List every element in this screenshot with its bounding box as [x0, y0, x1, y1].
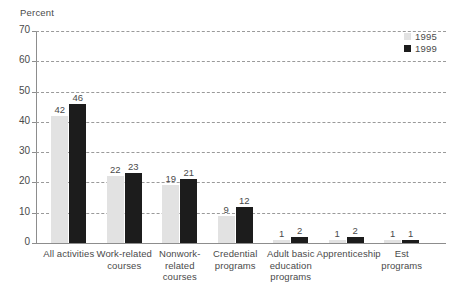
legend: 19951999: [404, 32, 437, 53]
bar-group: 12: [329, 237, 364, 243]
x-axis-category-line: Nonwork-: [150, 248, 210, 260]
y-tick-label: 10: [19, 206, 30, 217]
y-tick-label: 70: [19, 24, 30, 35]
bar-value-label: 46: [72, 93, 83, 103]
bar-rect: [402, 240, 419, 243]
y-tick-label: 40: [19, 115, 30, 126]
x-axis-category-label: Credentialprograms: [206, 248, 266, 271]
bar-chart: Percent 010203040506070 4246222319219121…: [0, 0, 459, 305]
y-tick-mark: [32, 213, 36, 214]
y-tick-mark: [32, 61, 36, 62]
y-tick-mark: [32, 152, 36, 153]
bar-value-label: 42: [54, 105, 65, 115]
bar-1995: 9: [218, 216, 235, 243]
bar-1999: 2: [291, 237, 308, 243]
plot-area: 010203040506070 424622231921912121211: [36, 31, 446, 243]
bar-value-label: 12: [239, 196, 250, 206]
y-tick-label: 30: [19, 145, 30, 156]
bar-1995: 22: [107, 176, 124, 243]
bar-group: 2223: [107, 173, 142, 243]
bar-1995: 19: [162, 185, 179, 243]
bar-1995: 42: [51, 116, 68, 243]
legend-swatch-icon: [404, 33, 411, 40]
y-tick-label: 50: [19, 85, 30, 96]
bar-group: 4246: [51, 104, 86, 243]
caption-strip: [0, 298, 459, 305]
bar-value-label: 1: [408, 229, 413, 239]
gridline: [36, 182, 446, 183]
bar-rect: [162, 185, 179, 243]
x-axis-category-label: Nonwork-relatedcourses: [150, 248, 210, 283]
gridline: [36, 92, 446, 93]
x-axis-category-line: All activities: [39, 248, 99, 260]
x-axis-category-line: education: [261, 260, 321, 272]
x-axis-category-line: programs: [206, 260, 266, 272]
x-axis-category-line: Credential: [206, 248, 266, 260]
bar-group: 11: [384, 240, 419, 243]
y-tick-label: 60: [19, 54, 30, 65]
x-axis-category-line: Apprenticeship: [317, 248, 377, 260]
x-axis-category-label: Work-relatedcourses: [95, 248, 155, 271]
bar-value-label: 19: [165, 174, 176, 184]
bar-value-label: 21: [183, 168, 194, 178]
bar-group: 12: [273, 237, 308, 243]
x-axis-category-line: programs: [372, 260, 432, 272]
bar-value-label: 2: [353, 226, 358, 236]
bar-1999: 12: [236, 207, 253, 243]
bar-rect: [107, 176, 124, 243]
y-tick-label: 20: [19, 175, 30, 186]
legend-item: 1999: [404, 44, 437, 54]
x-axis-category-label: Adult basiceducationprograms: [261, 248, 321, 283]
bar-group: 1921: [162, 179, 197, 243]
bar-rect: [329, 240, 346, 243]
bar-rect: [51, 116, 68, 243]
y-axis-title: Percent: [20, 7, 54, 18]
gridline: [36, 152, 446, 153]
y-tick-mark: [32, 243, 36, 244]
y-tick-label: 0: [24, 236, 30, 247]
bar-rect: [236, 207, 253, 243]
legend-label: 1995: [415, 32, 437, 42]
legend-label: 1999: [415, 44, 437, 54]
bar-rect: [69, 104, 86, 243]
bar-rect: [273, 240, 290, 243]
bar-1995: 1: [329, 240, 346, 243]
y-tick-mark: [32, 122, 36, 123]
x-axis-category-line: Adult basic: [261, 248, 321, 260]
bar-1999: 46: [69, 104, 86, 243]
bar-rect: [384, 240, 401, 243]
bar-1999: 21: [180, 179, 197, 243]
bar-1995: 1: [384, 240, 401, 243]
bar-value-label: 1: [335, 229, 340, 239]
gridline: [36, 122, 446, 123]
x-axis-category-line: programs: [261, 271, 321, 283]
x-axis-category-line: Work-related: [95, 248, 155, 260]
x-axis-category-label: Apprenticeship: [317, 248, 377, 260]
y-axis-line: [36, 31, 37, 243]
bar-1999: 1: [402, 240, 419, 243]
bar-rect: [125, 173, 142, 243]
y-tick-mark: [32, 31, 36, 32]
y-tick-mark: [32, 92, 36, 93]
bar-value-label: 1: [390, 229, 395, 239]
legend-swatch-icon: [404, 45, 411, 52]
bar-1995: 1: [273, 240, 290, 243]
bar-rect: [291, 237, 308, 243]
bar-1999: 23: [125, 173, 142, 243]
x-axis-line: [36, 243, 446, 244]
legend-item: 1995: [404, 32, 437, 42]
x-axis-category-label: Estprograms: [372, 248, 432, 271]
gridline: [36, 31, 446, 32]
bar-value-label: 22: [110, 165, 121, 175]
bar-value-label: 9: [224, 205, 229, 215]
x-axis-category-line: related: [150, 260, 210, 272]
bar-rect: [218, 216, 235, 243]
bar-value-label: 2: [297, 226, 302, 236]
bar-rect: [347, 237, 364, 243]
x-axis-category-line: courses: [150, 271, 210, 283]
bar-1999: 2: [347, 237, 364, 243]
x-axis-category-line: courses: [95, 260, 155, 272]
bar-group: 912: [218, 207, 253, 243]
x-axis-category-line: Est: [372, 248, 432, 260]
y-tick-mark: [32, 182, 36, 183]
